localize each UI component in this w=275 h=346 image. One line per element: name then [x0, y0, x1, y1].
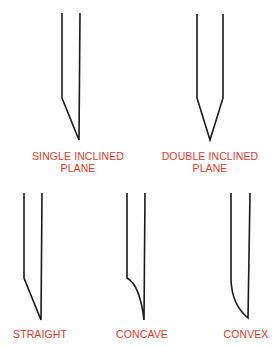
single-inclined-plane-label: SINGLE INCLINED PLANE	[18, 150, 138, 174]
convex-label: CONVEX	[206, 328, 275, 340]
label-line: STRAIGHT	[0, 328, 80, 340]
concave-bevel-shape	[127, 193, 145, 320]
label-line: PLANE	[18, 162, 138, 174]
single-inclined-plane-shape	[62, 13, 80, 140]
convex-bevel-shape	[231, 193, 250, 318]
straight-label: STRAIGHT	[0, 328, 80, 340]
label-line: PLANE	[150, 162, 270, 174]
label-line: DOUBLE INCLINED	[150, 150, 270, 162]
double-inclined-plane-shape	[197, 14, 223, 140]
concave-label: CONCAVE	[102, 328, 182, 340]
double-inclined-plane-label: DOUBLE INCLINED PLANE	[150, 150, 270, 174]
label-line: CONVEX	[206, 328, 275, 340]
label-line: SINGLE INCLINED	[18, 150, 138, 162]
label-line: CONCAVE	[102, 328, 182, 340]
straight-bevel-shape	[24, 193, 42, 320]
